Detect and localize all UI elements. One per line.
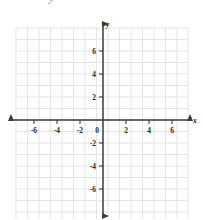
x-tick-label-4: 4 [147,126,151,135]
y-tick-label--6: -6 [90,185,96,194]
y-tick-label--4: -4 [90,162,96,171]
y-tick-label-2: 2 [92,93,96,102]
x-tick-label-2: 2 [124,126,128,135]
x-axis-label: x [192,116,197,125]
y-tick-label--2: -2 [90,139,96,148]
y-tick-label-4: 4 [92,70,96,79]
origin-label: 0 [95,126,99,135]
x-tick-label--6: -6 [31,126,37,135]
x-tick-label-6: 6 [170,126,174,135]
y-tick-label-6: 6 [92,47,96,56]
y-axis-label: y [105,20,110,29]
coordinate-plane-figure: y [0,0,203,220]
x-tick-label--2: -2 [77,126,83,135]
x-tick-label--4: -4 [54,126,60,135]
coordinate-grid-svg: -6 -4 -2 2 4 6 0 6 4 2 -2 -4 -6 y x [0,0,203,220]
